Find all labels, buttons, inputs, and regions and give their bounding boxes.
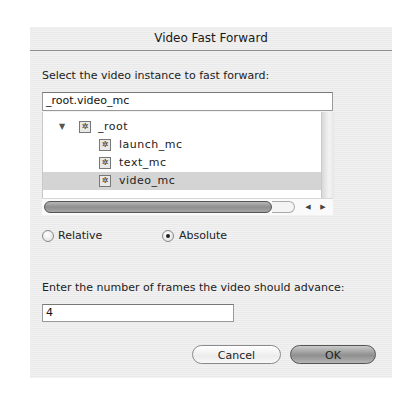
tree-row-label: text_mc (119, 154, 166, 172)
scroll-right-arrow-icon[interactable]: ▶ (317, 201, 329, 213)
frames-input[interactable]: 4 (42, 304, 234, 322)
tree-row-launch-mc[interactable]: ✲ launch_mc (43, 136, 321, 154)
movieclip-icon: ✲ (99, 175, 111, 187)
relative-radio-label[interactable]: Relative (58, 229, 102, 242)
video-fast-forward-dialog: Video Fast Forward Select the video inst… (30, 27, 392, 378)
tree-row-label: _root (98, 118, 128, 136)
absolute-radio[interactable] (162, 230, 174, 242)
relative-radio[interactable] (42, 230, 54, 242)
frames-label: Enter the number of frames the video sho… (42, 281, 344, 294)
movieclip-icon: ✲ (99, 157, 111, 169)
scroll-left-arrow-icon[interactable]: ◀ (302, 201, 314, 213)
tree-row-label: video_mc (119, 172, 175, 190)
absolute-radio-label[interactable]: Absolute (179, 229, 227, 242)
movieclip-icon: ✲ (99, 139, 111, 151)
dialog-title: Video Fast Forward (30, 27, 392, 51)
cancel-button[interactable]: Cancel (192, 345, 281, 364)
expand-triangle-icon[interactable]: ▼ (59, 118, 65, 136)
movieclip-icon: ✲ (79, 121, 91, 133)
tree-row-root[interactable]: ▼ ✲ _root (43, 118, 321, 136)
instance-path-input[interactable]: _root.video_mc (42, 92, 333, 111)
ok-button[interactable]: OK (290, 345, 376, 364)
tree-row-label: launch_mc (119, 136, 183, 154)
tree-vertical-scrollbar[interactable] (321, 112, 334, 198)
scrollbar-thumb[interactable] (44, 201, 272, 213)
tree-horizontal-scrollbar[interactable]: ◀ ▶ (42, 198, 333, 215)
tree-row-video-mc[interactable]: ✲ video_mc (43, 172, 321, 190)
scrollbar-track[interactable] (272, 201, 295, 213)
instance-label: Select the video instance to fast forwar… (42, 69, 269, 82)
tree-row-text-mc[interactable]: ✲ text_mc (43, 154, 321, 172)
